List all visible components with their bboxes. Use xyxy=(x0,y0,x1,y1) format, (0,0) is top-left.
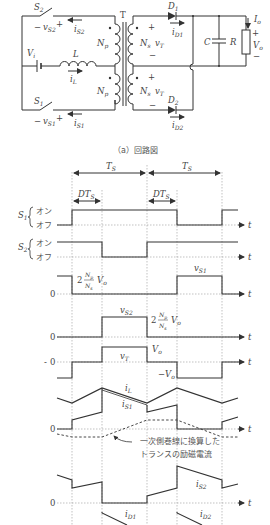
svg-text:Np: Np xyxy=(96,38,108,50)
svg-text:iL: iL xyxy=(70,74,77,85)
svg-text:t: t xyxy=(248,498,252,508)
svg-text:vS2: vS2 xyxy=(120,305,133,316)
svg-text:Np: Np xyxy=(158,311,167,320)
svg-text:オフ: オフ xyxy=(36,221,52,230)
svg-text:iS1: iS1 xyxy=(122,399,133,410)
svg-text:Ns: Ns xyxy=(84,282,93,291)
svg-text:S2: S2 xyxy=(18,242,28,253)
svg-text:iD2: iD2 xyxy=(200,509,212,520)
svg-text:一次側巻線に換算した: 一次側巻線に換算した xyxy=(140,436,220,446)
svg-text:Np: Np xyxy=(84,271,93,280)
circuit-diagram: S2 − vS2 + iS2 S1 − vS1 + iS1 Vi L xyxy=(22,1,263,155)
svg-text:−: − xyxy=(253,51,260,61)
svg-text:Ns: Ns xyxy=(139,38,151,49)
svg-text:Vo: Vo xyxy=(253,40,263,51)
svg-text:vT: vT xyxy=(155,38,165,49)
svg-text:0: 0 xyxy=(50,332,55,342)
svg-text:R: R xyxy=(229,37,237,47)
svg-text:t: t xyxy=(248,357,252,367)
diode-d1-icon xyxy=(168,12,176,20)
svg-text:iD1: iD1 xyxy=(125,509,136,520)
svg-text:t: t xyxy=(248,220,252,230)
svg-text:iD1: iD1 xyxy=(172,27,183,38)
svg-text:Np: Np xyxy=(96,86,108,98)
svg-text:Io: Io xyxy=(253,14,261,25)
primary-windings: Np Np xyxy=(96,24,120,104)
svg-text:Vo: Vo xyxy=(171,315,181,326)
svg-text:トランスの励磁電流: トランスの励磁電流 xyxy=(140,449,212,459)
svg-text:0: 0 xyxy=(50,424,55,434)
svg-text:オフ: オフ xyxy=(36,253,52,262)
svg-text:−: − xyxy=(34,22,41,32)
resistor-icon xyxy=(242,30,250,54)
waveform-s2: S2 オン オフ t xyxy=(18,239,252,262)
svg-text:−Vo: −Vo xyxy=(158,369,175,380)
svg-text:t: t xyxy=(248,252,252,262)
svg-text:0: 0 xyxy=(50,498,55,508)
svg-text:S1: S1 xyxy=(34,96,44,107)
svg-text:0: 0 xyxy=(50,289,55,299)
svg-text:Vo: Vo xyxy=(97,275,107,286)
capacitor-icon xyxy=(212,16,226,66)
svg-text:iS1: iS1 xyxy=(74,118,85,129)
svg-text:vS2: vS2 xyxy=(43,22,56,33)
svg-text:iS2: iS2 xyxy=(196,479,207,490)
source-and-inductor: Vi L iL xyxy=(22,48,115,85)
svg-text:オン: オン xyxy=(36,207,52,216)
circuit-caption: （a）回路図 xyxy=(113,145,158,155)
svg-text:Ns: Ns xyxy=(158,322,167,331)
svg-text:C: C xyxy=(204,37,211,47)
secondary-windings: Ns Ns vT vT + − + − xyxy=(128,16,165,110)
switch-s2: S2 − vS2 + iS2 xyxy=(34,2,115,35)
svg-text:+: + xyxy=(56,19,63,29)
svg-text:Vo: Vo xyxy=(152,344,162,355)
switch-s1: S1 − vS1 + iS1 xyxy=(34,96,115,129)
timing-waveforms: TS TS DTS DTS S1 オン オフ t S2 オン オフ t xyxy=(18,161,252,525)
diode-d2-icon xyxy=(168,106,176,114)
svg-text:TS: TS xyxy=(106,161,116,172)
svg-text:T: T xyxy=(120,10,126,20)
waveform-vt: - 0 t vT Vo −Vo xyxy=(44,344,252,380)
svg-text:-: - xyxy=(44,357,47,367)
svg-text:D1: D1 xyxy=(167,1,179,12)
svg-text:2: 2 xyxy=(151,315,156,325)
svg-text:−: − xyxy=(149,100,156,110)
svg-text:t: t xyxy=(248,289,252,299)
svg-text:Ns: Ns xyxy=(139,86,151,97)
svg-text:t: t xyxy=(248,332,252,342)
svg-text:−: − xyxy=(149,50,156,60)
svg-text:vS1: vS1 xyxy=(194,263,207,274)
svg-text:DTS: DTS xyxy=(152,189,170,200)
svg-text:iS2: iS2 xyxy=(74,24,85,35)
push-pull-converter-figure: S2 − vS2 + iS2 S1 − vS1 + iS1 Vi L xyxy=(0,0,270,525)
svg-text:2: 2 xyxy=(77,275,82,285)
svg-text:+: + xyxy=(148,72,155,82)
svg-text:+: + xyxy=(148,22,155,32)
svg-text:+: + xyxy=(252,28,259,38)
svg-text:L: L xyxy=(72,49,79,59)
svg-text:t: t xyxy=(248,424,252,434)
output-section: D1 iD1 D2 iD2 C R Io + Vo − xyxy=(133,1,263,131)
svg-text:Vi: Vi xyxy=(27,48,35,59)
svg-text:DTS: DTS xyxy=(77,189,95,200)
svg-text:0: 0 xyxy=(50,357,55,367)
svg-text:D2: D2 xyxy=(167,95,179,106)
s2-label: S2 xyxy=(34,2,44,13)
waveform-s1: S1 オン オフ t xyxy=(18,207,252,230)
svg-text:vT: vT xyxy=(155,86,165,97)
inductor-icon xyxy=(60,62,96,67)
waveform-id: iD1 iD2 xyxy=(102,509,212,525)
svg-text:−: − xyxy=(34,116,41,126)
svg-text:vT: vT xyxy=(120,351,130,362)
svg-text:S1: S1 xyxy=(18,210,28,221)
svg-text:+: + xyxy=(56,113,63,123)
svg-text:オン: オン xyxy=(36,239,52,248)
svg-text:vS1: vS1 xyxy=(43,116,56,127)
svg-text:iD2: iD2 xyxy=(172,120,184,131)
svg-text:iL: iL xyxy=(125,383,132,394)
svg-text:TS: TS xyxy=(182,161,192,172)
